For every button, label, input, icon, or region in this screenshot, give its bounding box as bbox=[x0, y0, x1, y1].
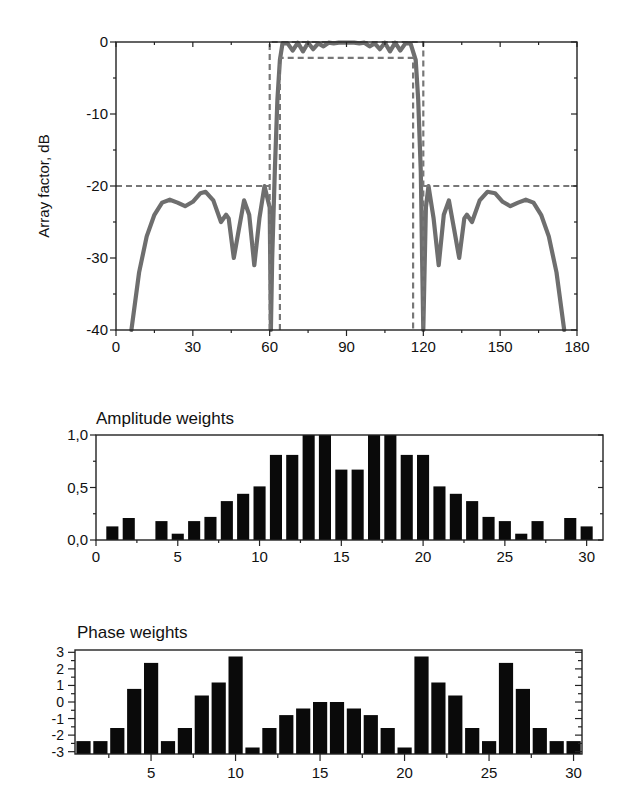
x-tick-label: 20 bbox=[415, 548, 432, 565]
amplitude-bar bbox=[155, 521, 167, 540]
phase-bar bbox=[262, 728, 276, 754]
amplitude-bar bbox=[515, 534, 527, 540]
phase-bar bbox=[161, 741, 175, 754]
x-tick-label: 120 bbox=[411, 338, 436, 355]
phase-bar bbox=[178, 728, 192, 754]
phase-weights-title: Phase weights bbox=[77, 623, 188, 642]
phase-bar bbox=[229, 657, 243, 755]
amplitude-bar bbox=[401, 455, 413, 540]
x-tick-label: 30 bbox=[565, 764, 582, 781]
x-tick-label: 5 bbox=[147, 764, 155, 781]
array-factor-plot: 03060901201501800-10-20-30-40 Array fact… bbox=[35, 33, 590, 355]
array-factor-axes: 03060901201501800-10-20-30-40 bbox=[86, 33, 589, 355]
y-tick-label: 1 bbox=[56, 677, 64, 693]
x-tick-label: 180 bbox=[564, 338, 589, 355]
amplitude-bar bbox=[123, 518, 135, 540]
array-factor-curves bbox=[116, 42, 577, 330]
phase-bar bbox=[110, 728, 124, 754]
amplitude-bar bbox=[254, 486, 266, 540]
mask-line bbox=[280, 58, 413, 330]
amplitude-axes: 0510152025300,00,51,0 bbox=[67, 426, 603, 565]
x-tick-label: 15 bbox=[333, 548, 350, 565]
x-tick-label: 150 bbox=[488, 338, 513, 355]
x-tick-label: 5 bbox=[174, 548, 182, 565]
x-tick-label: 30 bbox=[184, 338, 201, 355]
phase-bar bbox=[93, 741, 107, 754]
phase-bar bbox=[516, 689, 530, 754]
amplitude-bar bbox=[499, 521, 511, 540]
amplitude-bar bbox=[450, 494, 462, 540]
y-tick-label: -2 bbox=[52, 727, 65, 743]
x-tick-label: 10 bbox=[227, 764, 244, 781]
y-tick-label: -1 bbox=[52, 711, 65, 727]
amplitude-bar bbox=[286, 455, 298, 540]
phase-weights-plot: Phase weights 510152025303210-1-2-3 bbox=[52, 623, 582, 781]
amplitude-bar bbox=[188, 521, 200, 540]
phase-bar bbox=[465, 728, 479, 754]
phase-bar bbox=[364, 715, 378, 754]
amplitude-bar bbox=[483, 517, 495, 540]
phase-bar bbox=[398, 748, 412, 755]
amplitude-weights-title: Amplitude weights bbox=[96, 409, 234, 428]
phase-bar bbox=[499, 663, 513, 754]
phase-bar bbox=[550, 741, 564, 754]
phase-bar bbox=[381, 728, 395, 754]
amplitude-bar bbox=[417, 455, 429, 540]
amplitude-bar bbox=[319, 435, 331, 540]
y-tick-label: -3 bbox=[52, 744, 65, 760]
figure: 03060901201501800-10-20-30-40 Array fact… bbox=[0, 0, 631, 807]
amplitude-frame bbox=[96, 435, 603, 540]
phase-bar bbox=[76, 741, 90, 754]
x-tick-label: 25 bbox=[497, 548, 514, 565]
y-tick-label: -20 bbox=[86, 177, 108, 194]
amplitude-weights-plot: Amplitude weights 0510152025300,00,51,0 bbox=[67, 409, 603, 565]
amplitude-bar bbox=[368, 435, 380, 540]
phase-bar bbox=[414, 657, 428, 755]
phase-bar bbox=[448, 696, 462, 755]
phase-bar bbox=[482, 741, 496, 754]
phase-bar bbox=[279, 715, 293, 754]
y-tick-label: 3 bbox=[56, 644, 64, 660]
y-tick-label: -10 bbox=[86, 105, 108, 122]
phase-bar bbox=[533, 728, 547, 754]
amplitude-bar bbox=[532, 521, 544, 540]
phase-bar bbox=[296, 709, 310, 755]
y-tick-label: 0,5 bbox=[67, 479, 88, 496]
phase-bar bbox=[431, 683, 445, 755]
x-tick-label: 90 bbox=[338, 338, 355, 355]
y-tick-label: -30 bbox=[86, 249, 108, 266]
amplitude-bar bbox=[352, 470, 364, 540]
amplitude-bar bbox=[204, 517, 216, 540]
x-tick-label: 60 bbox=[261, 338, 278, 355]
y-tick-label: 0 bbox=[56, 694, 64, 710]
amplitude-bar bbox=[384, 435, 396, 540]
amplitude-bar bbox=[106, 526, 118, 540]
phase-bar bbox=[245, 748, 259, 755]
amplitude-bar bbox=[335, 470, 347, 540]
x-tick-label: 10 bbox=[251, 548, 268, 565]
y-tick-label: 0,0 bbox=[67, 531, 88, 548]
phase-bar bbox=[212, 683, 226, 755]
amplitude-bar bbox=[581, 526, 593, 540]
y-tick-label: 2 bbox=[56, 661, 64, 677]
y-tick-label: 0 bbox=[100, 33, 108, 50]
amplitude-bar bbox=[466, 501, 478, 540]
amplitude-bar bbox=[564, 518, 576, 540]
amplitude-bar bbox=[433, 486, 445, 540]
y-tick-label: -40 bbox=[86, 321, 108, 338]
x-tick-label: 30 bbox=[578, 548, 595, 565]
x-tick-label: 0 bbox=[112, 338, 120, 355]
phase-bar bbox=[313, 702, 327, 754]
phase-bars bbox=[76, 657, 580, 755]
amplitude-bar bbox=[172, 534, 184, 540]
array-factor-ylabel: Array factor, dB bbox=[35, 134, 52, 237]
phase-bar bbox=[347, 709, 361, 755]
phase-bar bbox=[144, 663, 158, 754]
x-tick-label: 25 bbox=[481, 764, 498, 781]
amplitude-bars bbox=[106, 435, 592, 540]
amplitude-bar bbox=[303, 435, 315, 540]
amplitude-bar bbox=[221, 501, 233, 540]
x-tick-label: 0 bbox=[92, 548, 100, 565]
x-tick-label: 15 bbox=[312, 764, 329, 781]
phase-bar bbox=[127, 689, 141, 754]
